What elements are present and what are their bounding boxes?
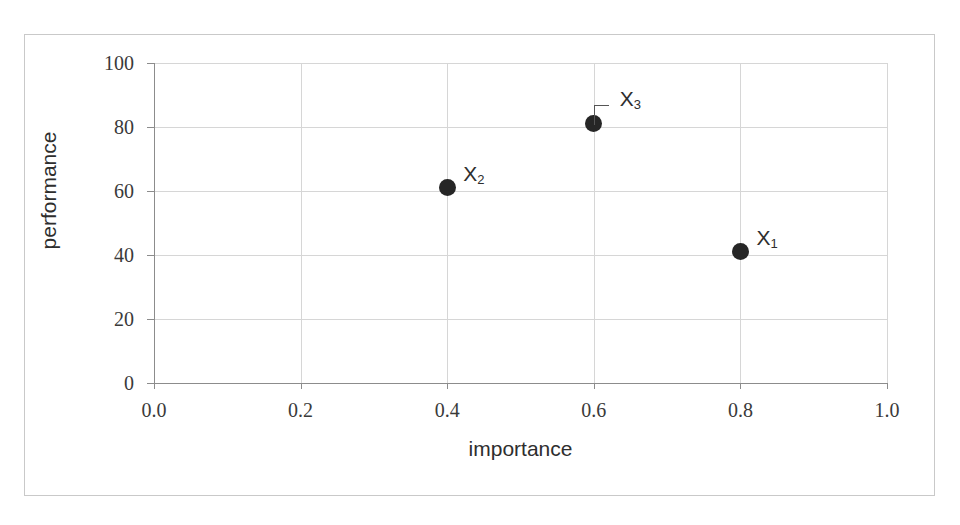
x-tick-label: 0.2 — [261, 400, 341, 420]
y-tick-mark — [147, 63, 154, 64]
x-tick-mark — [154, 383, 155, 389]
gridline-horizontal — [154, 255, 887, 256]
x-tick-label: 0.0 — [114, 400, 194, 420]
data-point[interactable] — [732, 243, 749, 260]
y-tick-label: 20 — [74, 309, 134, 329]
data-point[interactable] — [439, 179, 456, 196]
x-axis-title: importance — [154, 438, 887, 459]
x-tick-mark — [301, 383, 302, 389]
data-point-label: X2 — [463, 163, 484, 184]
y-axis-title: performance — [38, 81, 59, 301]
y-tick-label: 40 — [74, 245, 134, 265]
gridline-vertical — [887, 63, 888, 383]
x-tick-label: 0.6 — [554, 400, 634, 420]
scatter-chart-figure: X1X2X3 020406080100 0.00.20.40.60.81.0 i… — [0, 0, 960, 525]
gridline-horizontal — [154, 127, 887, 128]
gridline-vertical — [740, 63, 741, 383]
gridline-vertical — [447, 63, 448, 383]
gridline-horizontal — [154, 319, 887, 320]
y-tick-label: 60 — [74, 181, 134, 201]
x-tick-mark — [740, 383, 741, 389]
x-axis-line — [154, 383, 887, 384]
y-axis-line — [154, 63, 155, 384]
x-tick-mark — [447, 383, 448, 389]
y-tick-mark — [147, 255, 154, 256]
gridline-horizontal — [154, 63, 887, 64]
y-tick-mark — [147, 127, 154, 128]
gridline-horizontal — [154, 191, 887, 192]
gridline-vertical — [301, 63, 302, 383]
y-tick-mark — [147, 383, 154, 384]
data-point-label: X1 — [756, 227, 777, 248]
x-tick-label: 0.4 — [407, 400, 487, 420]
y-tick-mark — [147, 319, 154, 320]
x-tick-mark — [887, 383, 888, 389]
plot-area: X1X2X3 — [154, 63, 887, 383]
label-leader-line — [594, 105, 609, 125]
data-point-label: X3 — [620, 88, 641, 109]
x-tick-label: 1.0 — [847, 400, 927, 420]
y-tick-label: 100 — [74, 53, 134, 73]
y-tick-mark — [147, 191, 154, 192]
x-tick-label: 0.8 — [700, 400, 780, 420]
y-tick-label: 80 — [74, 117, 134, 137]
x-tick-mark — [594, 383, 595, 389]
y-tick-label: 0 — [74, 373, 134, 393]
